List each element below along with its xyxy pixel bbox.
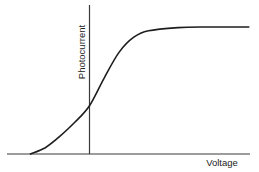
photocurrent-curve xyxy=(31,27,249,154)
x-axis-label: Voltage xyxy=(206,157,238,168)
y-axis-label: Photocurrent xyxy=(76,24,87,79)
photocurrent-voltage-chart: Photocurrent Voltage xyxy=(0,0,259,172)
